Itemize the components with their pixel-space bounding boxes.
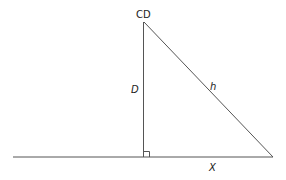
- apex-label: CD: [136, 9, 151, 20]
- triangle-diagram: CD D h X: [0, 0, 286, 180]
- right-angle-marker: [144, 152, 150, 158]
- hypotenuse-label: h: [210, 81, 216, 92]
- base-label: X: [208, 162, 217, 173]
- vertical-side-label: D: [131, 84, 139, 95]
- hypotenuse: [144, 22, 273, 157]
